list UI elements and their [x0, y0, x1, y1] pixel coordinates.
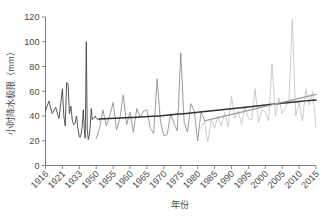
data-series-line: [96, 53, 204, 141]
x-tick-label: 1955: [97, 169, 119, 191]
y-axis-title: 小时降水极限（mm）: [5, 47, 16, 134]
x-tick-label: 2000: [249, 169, 271, 191]
x-tick-label: 1965: [130, 169, 152, 191]
y-tick-label: 40: [29, 111, 39, 121]
y-tick-label: 80: [29, 62, 39, 72]
x-tick-label: 2015: [299, 169, 321, 191]
x-tick-label: 2005: [266, 169, 288, 191]
trend-line: [100, 100, 316, 119]
y-tick-label: 60: [29, 87, 39, 97]
data-series-group: [46, 19, 317, 142]
x-tick-label: 1933: [63, 169, 85, 191]
y-tick-label: 120: [24, 12, 39, 22]
y-tick-label: 20: [29, 136, 39, 146]
x-tick-label: 1995: [232, 169, 254, 191]
x-tick-label: 1990: [215, 169, 237, 191]
y-tick-label: 0: [34, 161, 39, 171]
x-tick-label: 1916: [29, 169, 51, 191]
x-tick-label: 1980: [181, 169, 203, 191]
x-tick-label: 1985: [198, 169, 220, 191]
x-axis-title: 年份: [171, 199, 189, 210]
precipitation-extreme-line-chart: 020406080100120 191619211933195019551960…: [0, 0, 325, 218]
trend-lines-group: [100, 94, 316, 121]
data-series-line: [46, 42, 100, 140]
x-axis-ticks: 1916192119331950195519601965197019751980…: [29, 166, 321, 191]
x-tick-label: 1950: [80, 169, 102, 191]
x-tick-label: 1970: [147, 169, 169, 191]
y-tick-label: 100: [24, 37, 39, 47]
x-tick-label: 1975: [164, 169, 186, 191]
data-series-line: [201, 19, 316, 142]
x-tick-label: 2010: [282, 169, 304, 191]
y-axis-ticks: 020406080100120: [24, 12, 45, 171]
x-tick-label: 1921: [46, 169, 68, 191]
x-tick-label: 1960: [113, 169, 135, 191]
chart-container: 020406080100120 191619211933195019551960…: [0, 0, 325, 218]
